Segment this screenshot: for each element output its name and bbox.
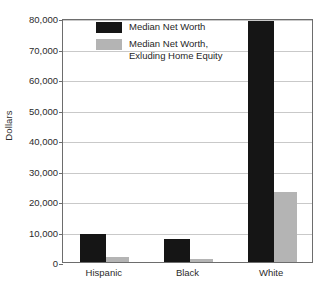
legend-swatch [96, 39, 122, 50]
bar [274, 192, 297, 262]
bar [164, 239, 190, 262]
x-axis-tick-label: White [259, 267, 283, 278]
legend-item: Median Net Worth, Exluding Home Equity [96, 38, 222, 61]
x-axis-tick-label: Black [176, 267, 199, 278]
legend-label: Median Net Worth [129, 21, 205, 33]
bar-chart: Dollars 010,00020,00030,00040,00050,0006… [0, 0, 331, 297]
y-axis-tick-label: 40,000 [12, 136, 58, 147]
y-axis-tick-label: 0 [12, 258, 58, 269]
legend-label: Median Net Worth, Exluding Home Equity [129, 38, 222, 61]
y-axis-tick-label: 70,000 [12, 44, 58, 55]
y-axis-tick-mark [59, 264, 63, 265]
bar [106, 257, 129, 262]
legend-item: Median Net Worth [96, 21, 222, 33]
y-axis-tick-label: 30,000 [12, 166, 58, 177]
bar [248, 21, 274, 262]
y-axis-tick-label: 60,000 [12, 75, 58, 86]
bar [190, 259, 213, 262]
y-axis-tick-labels: 010,00020,00030,00040,00050,00060,00070,… [8, 0, 58, 297]
bar-group [230, 20, 314, 262]
y-axis-tick-label: 80,000 [12, 14, 58, 25]
legend-swatch [96, 22, 122, 33]
bar [80, 234, 106, 262]
chart-legend: Median Net WorthMedian Net Worth, Exludi… [96, 21, 222, 61]
x-axis-tick-label: Hispanic [86, 267, 122, 278]
y-axis-tick-label: 20,000 [12, 197, 58, 208]
y-axis-tick-label: 50,000 [12, 105, 58, 116]
y-axis-tick-label: 10,000 [12, 227, 58, 238]
